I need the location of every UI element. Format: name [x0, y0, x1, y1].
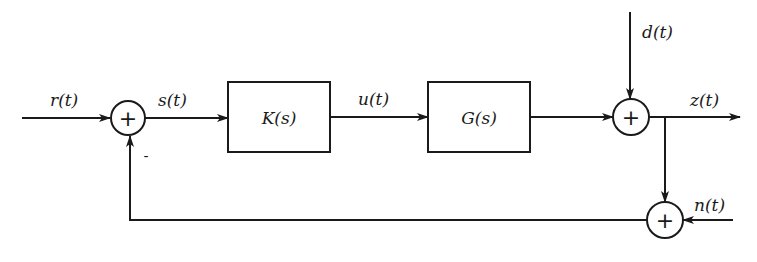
plant-label: G(s) — [461, 108, 497, 128]
control-signal-label: u(t) — [358, 89, 389, 109]
plus-sign: + — [656, 208, 674, 233]
plus-sign: + — [622, 105, 640, 130]
sum-junction-noise: + — [647, 202, 683, 238]
noise-signal-label: n(t) — [694, 195, 725, 215]
controller-block: K(s) — [228, 82, 330, 152]
block-diagram: r(t) + - s(t) K(s) u(t) G(s) d(t) + z(t)… — [0, 0, 757, 262]
error-signal-label: s(t) — [158, 90, 187, 110]
sum-junction-error: + — [111, 101, 145, 135]
sum-junction-disturbance: + — [613, 99, 649, 135]
disturbance-signal-label: d(t) — [642, 22, 673, 42]
plus-sign: + — [119, 106, 137, 131]
feedback-path-line — [130, 136, 647, 220]
controller-label: K(s) — [261, 108, 297, 128]
plant-block: G(s) — [428, 82, 530, 152]
feedback-minus-sign: - — [143, 148, 148, 164]
reference-signal-label: r(t) — [50, 90, 78, 110]
output-signal-label: z(t) — [689, 90, 719, 110]
